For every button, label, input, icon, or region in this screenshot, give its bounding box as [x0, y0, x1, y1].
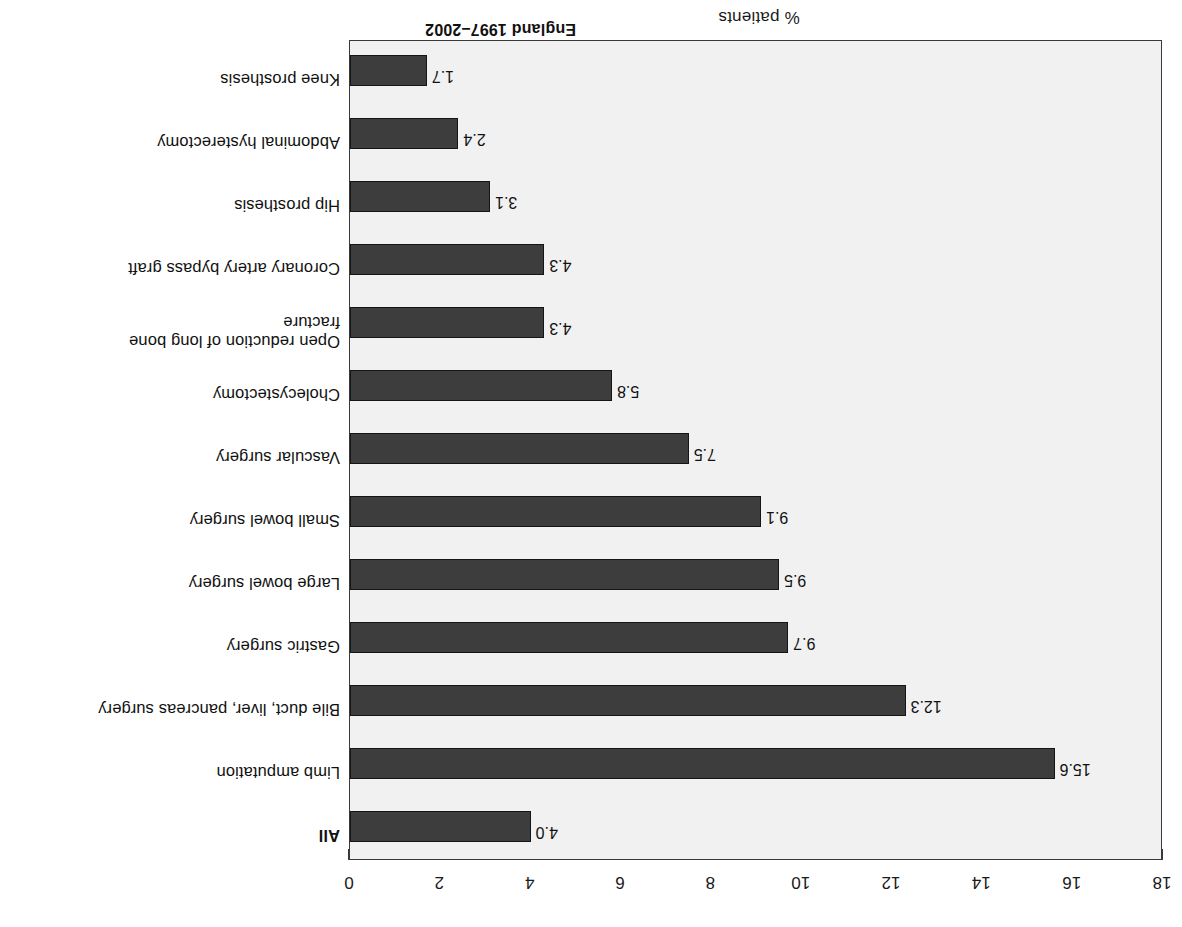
figure-caption: England 1997–2002	[425, 20, 576, 38]
bar	[350, 622, 788, 653]
x-tick-label: 8	[706, 872, 715, 892]
x-tick-label: 18	[1153, 872, 1172, 892]
category-label: Gastric surgery	[227, 637, 340, 656]
category-label: Open reduction of long bone fracture	[129, 313, 340, 351]
bar	[350, 811, 531, 842]
x-tick-label: 14	[972, 872, 991, 892]
bar-row: 3.1Hip prosthesis	[350, 165, 1161, 228]
bar-value-label: 4.3	[542, 256, 571, 274]
bar	[350, 370, 612, 401]
bar-row: 4.3Coronary artery bypass graft	[350, 228, 1161, 291]
bar-value-label: 9.1	[759, 508, 788, 526]
bar-value-label: 7.5	[687, 445, 716, 463]
bar	[350, 685, 906, 716]
bar-row: 7.5Vascular surgery	[350, 417, 1161, 480]
x-tick-label: 16	[1062, 872, 1081, 892]
bar-row: 15.6Limb amputation	[350, 732, 1161, 795]
bar-value-label: 4.3	[542, 319, 571, 337]
x-tick-label: 6	[615, 872, 624, 892]
bar-row: 2.4Abdominal hysterectomy	[350, 102, 1161, 165]
category-label: Abdominal hysterectomy	[157, 133, 340, 152]
bar-value-label: 5.8	[610, 382, 639, 400]
category-label: Large bowel surgery	[189, 574, 340, 593]
bar-value-label: 1.7	[425, 67, 454, 85]
category-label: Small bowel surgery	[190, 511, 340, 530]
bar	[350, 118, 458, 149]
bar-row: 4.0All	[350, 795, 1161, 858]
rotated-figure-container: % patients 024681012141618 4.0All15.6Lim…	[0, 0, 1182, 927]
bar-value-label: 4.0	[529, 823, 558, 841]
bar-row: 4.3Open reduction of long bone fracture	[350, 291, 1161, 354]
bar	[350, 433, 689, 464]
bar-row: 12.3Bile duct, liver, pancreas surgery	[350, 669, 1161, 732]
category-label: Knee prosthesis	[220, 70, 340, 89]
category-label: Hip prosthesis	[234, 196, 340, 215]
figure-page: % patients 024681012141618 4.0All15.6Lim…	[0, 0, 1182, 927]
bar-value-label: 9.7	[786, 634, 815, 652]
bar-row: 9.7Gastric surgery	[350, 606, 1161, 669]
bar-row: 5.8Cholecystectomy	[350, 354, 1161, 417]
bar	[350, 307, 544, 338]
bar-value-label: 3.1	[488, 193, 517, 211]
bar	[350, 496, 761, 527]
x-axis-title: % patients	[689, 7, 829, 27]
bar	[350, 559, 779, 590]
category-label: Cholecystectomy	[213, 385, 340, 404]
bar-row: 9.5Large bowel surgery	[350, 543, 1161, 606]
bar-value-label: 2.4	[456, 130, 485, 148]
x-tick-label: 12	[882, 872, 901, 892]
x-tick-label: 4	[525, 872, 534, 892]
x-tick-label: 10	[791, 872, 810, 892]
bar	[350, 748, 1055, 779]
x-tick-label: 0	[344, 872, 353, 892]
bar	[350, 181, 490, 212]
category-label: All	[319, 826, 340, 845]
bar-row: 1.7Knee prosthesis	[350, 39, 1161, 102]
bar	[350, 244, 544, 275]
bar-row: 9.1Small bowel surgery	[350, 480, 1161, 543]
plot-area: 4.0All15.6Limb amputation12.3Bile duct, …	[349, 40, 1162, 860]
bar	[350, 55, 427, 86]
bar-value-label: 9.5	[777, 571, 806, 589]
x-tick-label: 2	[435, 872, 444, 892]
category-label: Bile duct, liver, pancreas surgery	[98, 700, 340, 719]
category-label: Vascular surgery	[216, 448, 340, 467]
bar-value-label: 12.3	[904, 697, 942, 715]
category-label: Coronary artery bypass graft	[128, 259, 340, 278]
bar-value-label: 15.6	[1053, 760, 1091, 778]
category-label: Limb amputation	[217, 763, 341, 782]
